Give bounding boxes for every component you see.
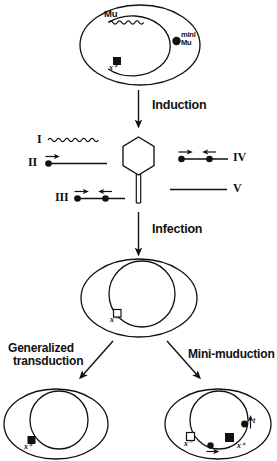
transductant-marker-label: x⁺ [24,443,32,451]
branch-arrow-left [82,341,113,376]
mu-label: Mu [104,9,117,19]
generalized-transduction-label-line2: transduction [13,355,83,368]
dot-marker [74,195,81,202]
induction-label: Induction [152,99,206,112]
muductant-open-marker-label: x⁻ [184,440,192,448]
cell-outer-membrane [81,259,197,337]
fragment-I [48,138,98,141]
mu-prophage-wavy [109,21,144,24]
recipient-cell [81,259,197,337]
diagram-canvas [0,0,277,461]
mini-mu-label-line2: Mu [181,39,191,47]
dot-marker [241,421,248,428]
fragment-IV [178,152,228,162]
phage-particle [123,137,154,203]
chromosome-circle [108,16,170,76]
filled-square-marker [225,433,234,442]
infection-label: Infection [152,223,202,236]
fragment-III [74,192,125,202]
dot-marker [45,160,52,167]
muductant-filled-marker-label: x⁺ [237,442,245,450]
recipient-marker-label: x⁻ [110,316,118,324]
muductant-cell [165,389,271,459]
fragment-II [45,157,107,167]
dot-marker [207,442,213,448]
mini-muduction-label: Mini-muduction [188,348,275,361]
fragment-IV-numeral: IV [233,151,246,164]
dot-marker [102,195,109,202]
fragment-II-numeral: II [28,156,37,169]
transductant-cell [4,389,108,459]
fragment-V-numeral: V [233,182,241,195]
fragment-I-wavy-dna [48,138,98,141]
donor-marker-label: x⁺ [109,64,117,72]
dot-marker [178,156,185,163]
fragment-III-numeral: III [55,191,68,204]
mini-mu-dot [172,37,180,45]
fragment-I-numeral: I [37,133,41,146]
chromosome-circle [30,391,88,449]
phage-head-hexagon [123,137,154,175]
generalized-transduction-label-line1: Generalized [8,342,74,355]
muductant-extra-marker-label: t [253,417,255,425]
dot-marker [206,156,213,163]
